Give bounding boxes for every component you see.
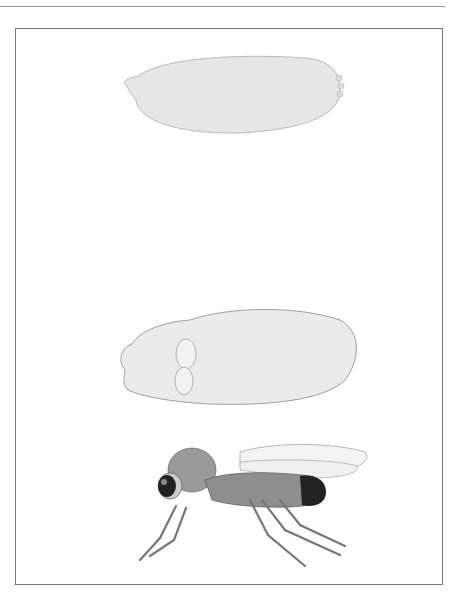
early-embryo-illustration — [124, 56, 344, 133]
diagram-artwork — [0, 0, 466, 606]
adult-fly-illustration — [140, 444, 367, 566]
late-embryo-illustration — [121, 310, 356, 405]
